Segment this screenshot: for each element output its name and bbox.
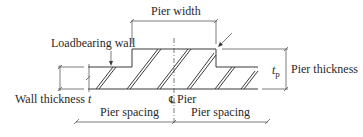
- pier-thickness-symbol: tp: [272, 63, 280, 79]
- wall-hatching: [96, 49, 258, 89]
- corner-pointer-arrow: [218, 33, 232, 47]
- centerline-pier-label: ℄Pier: [168, 92, 196, 106]
- wall-thickness-label: Wall thickness t: [15, 92, 92, 106]
- pier-spacing-left-label: Pier spacing: [100, 105, 159, 119]
- pier-spacing-right-label: Pier spacing: [191, 105, 250, 119]
- pier-thickness-label: Pier thickness: [291, 62, 358, 76]
- wall-thickness-dimension: [58, 65, 84, 91]
- pier-spacing-dimension: [74, 119, 270, 124]
- pier-wall-diagram: Pier width Loadbearing wall tp Pier thic…: [0, 0, 363, 137]
- pier-width-label: Pier width: [151, 4, 201, 18]
- loadbearing-wall-label: Loadbearing wall: [51, 36, 136, 50]
- wall-thickness-small-marker: [86, 64, 90, 92]
- loadbearing-wall-leader: [109, 51, 113, 66]
